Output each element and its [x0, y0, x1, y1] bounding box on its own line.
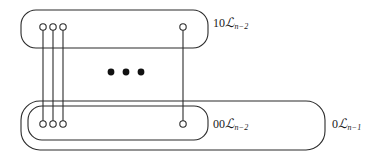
ellipsis-dot-icon — [123, 69, 130, 76]
bottom-node — [60, 121, 66, 127]
inner-bottom-box-label: 00ℒn−2 — [213, 117, 248, 132]
inner-bottom-box-label-prefix: 00 — [213, 117, 225, 131]
top-box-label-symbol: ℒ — [225, 15, 234, 30]
outer-bottom-box-label-subscript: n−1 — [347, 123, 361, 132]
top-node — [180, 24, 186, 30]
ellipsis-dot-icon — [108, 69, 115, 76]
outer-bottom-box-label-symbol: ℒ — [338, 116, 347, 131]
inner-bottom-box-label-subscript: n−2 — [234, 123, 248, 132]
top-box-label: 10ℒn−2 — [213, 16, 248, 31]
inner-bottom-box-label-symbol: ℒ — [225, 116, 234, 131]
top-box-label-prefix: 10 — [213, 16, 225, 30]
top-box-label-subscript: n−2 — [234, 22, 248, 31]
top-node — [60, 24, 66, 30]
top-node — [40, 24, 46, 30]
ellipsis-dot-icon — [138, 69, 145, 76]
diagram-root: 10ℒn−2 00ℒn−2 0ℒn−1 — [0, 0, 385, 163]
bottom-node — [180, 121, 186, 127]
diagram-canvas — [0, 0, 385, 163]
bottom-node — [50, 121, 56, 127]
top-node — [50, 24, 56, 30]
outer-bottom-box-label: 0ℒn−1 — [332, 117, 361, 132]
bottom-node — [40, 121, 46, 127]
outer-bottom-box-outline — [21, 101, 325, 150]
